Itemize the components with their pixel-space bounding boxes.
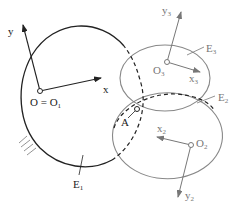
origin-o1-marker (38, 89, 43, 94)
e2-label: E2 (218, 92, 228, 107)
x3-axis-label: x3 (189, 73, 198, 88)
x2-axis-arrow-icon (157, 137, 191, 145)
ellipse-e2-solid (112, 93, 222, 179)
x-axis-arrow-icon (40, 78, 101, 91)
y3-axis-label: y3 (162, 5, 171, 20)
y-axis-arrow-icon (23, 25, 40, 91)
e1-leader (79, 155, 83, 175)
diagram-canvas: y x O = O1 y3 x3 O3 E3 x2 O2 y2 E2 A E1 (0, 0, 242, 210)
point-a-leader (128, 111, 135, 118)
e3-label: E3 (206, 43, 216, 58)
x2-axis-label: x2 (157, 123, 166, 138)
origin-o2-label: O2 (196, 138, 207, 153)
x3-axis-arrow-icon (167, 62, 200, 72)
y2-axis-label: y2 (185, 190, 194, 205)
origin-o3-marker (165, 60, 170, 65)
point-a-marker (135, 107, 140, 112)
y-axis-label: y (8, 26, 14, 37)
origin-o1-label: O = O1 (30, 97, 61, 112)
point-a-label: A (121, 117, 129, 128)
origin-o2-marker (189, 143, 194, 148)
origin-o3-label: O3 (153, 65, 164, 80)
e1-label: E1 (73, 179, 83, 194)
x-axis-label: x (103, 84, 109, 95)
